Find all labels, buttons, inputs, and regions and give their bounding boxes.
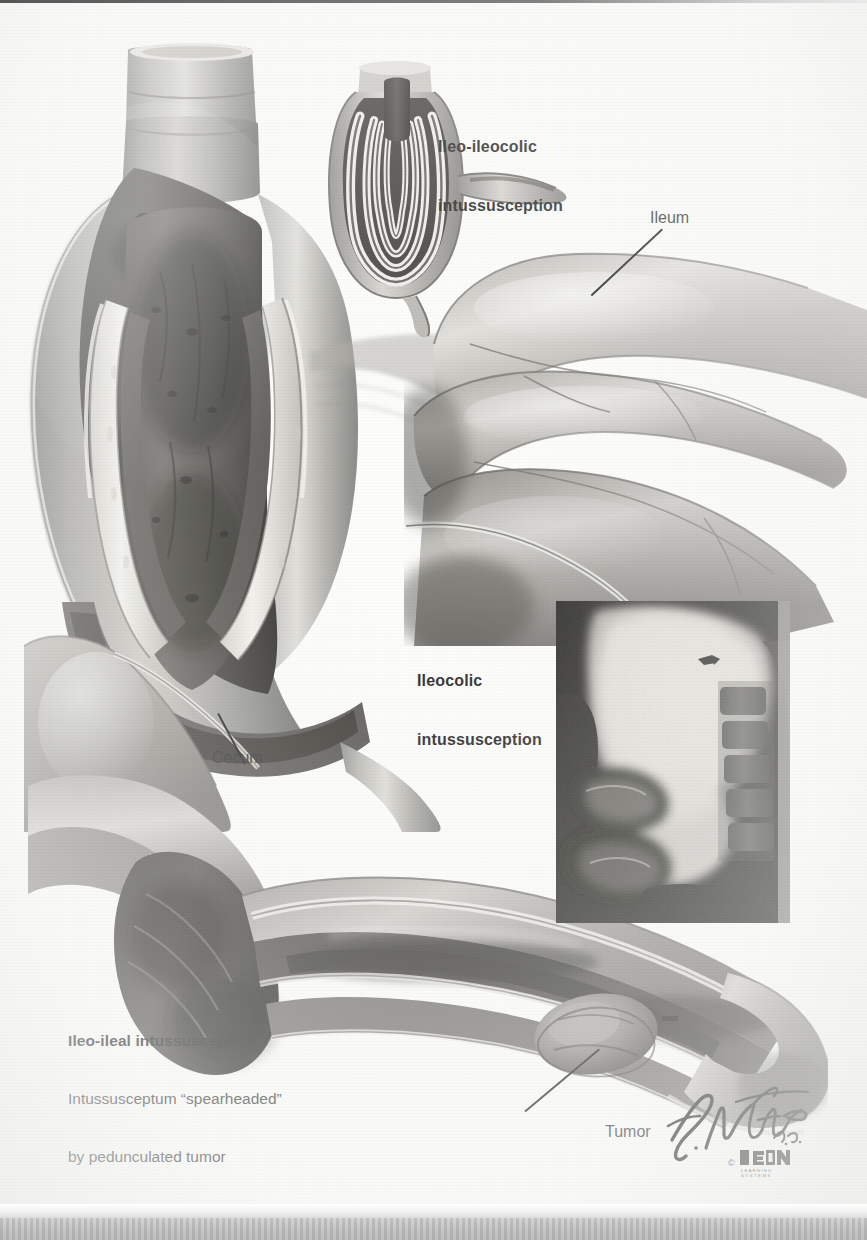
scan-bottom-edge [0, 1204, 867, 1240]
label-tumor: Tumor [605, 1122, 651, 1142]
svg-text:©: © [728, 1158, 735, 1168]
label-ileocolic-line1: Ileocolic [417, 671, 542, 691]
illustration-plate: Ileo-ileocolic intussusception Ileum Ile… [0, 0, 867, 1240]
label-ileocolic-line2: intussusception [417, 730, 542, 750]
caption-ileo-ileal: Ileo-ileal intussusception Intussusceptu… [68, 993, 282, 1206]
label-ileo-ileocolic: Ileo-ileocolic intussusception [438, 98, 563, 254]
caption-ileo-ileal-line1: Intussusceptum “spearheaded” [68, 1090, 282, 1109]
label-ileocolic: Ileocolic intussusception [417, 632, 542, 788]
label-ileo-ileocolic-line1: Ileo-ileocolic [438, 137, 563, 157]
publisher-mark: © LEARNING SYSTEMS [728, 1150, 790, 1178]
caption-ileo-ileal-title: Ileo-ileal intussusception [68, 1032, 282, 1051]
artist-signature: © LEARNING SYSTEMS [666, 1086, 816, 1178]
svg-text:SYSTEMS: SYSTEMS [741, 1173, 772, 1178]
scan-top-edge [0, 0, 867, 3]
label-cecum: Cecum [212, 748, 263, 768]
caption-ileo-ileal-line2: by pedunculated tumor [68, 1148, 282, 1167]
label-ileo-ileocolic-line2: intussusception [438, 196, 563, 216]
figure-radiograph-inset [556, 601, 790, 923]
label-ileum: Ileum [650, 208, 689, 228]
figure-ileum-loops [404, 226, 867, 646]
